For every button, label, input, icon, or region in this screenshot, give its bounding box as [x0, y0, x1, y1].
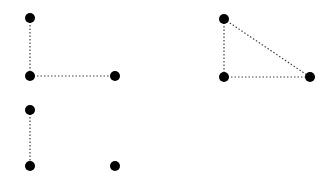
graph-node: [305, 72, 315, 82]
graph-diagram: [0, 0, 334, 177]
graph-node: [219, 72, 229, 82]
nodes-layer: [25, 13, 315, 171]
graph-node: [25, 13, 35, 23]
graph-node: [25, 161, 35, 171]
graph-node: [110, 161, 120, 171]
graph-node: [25, 105, 35, 115]
graph-node: [219, 14, 229, 24]
edges-layer: [30, 18, 310, 166]
dotted-edge: [224, 19, 310, 77]
graph-node: [110, 71, 120, 81]
graph-node: [25, 71, 35, 81]
